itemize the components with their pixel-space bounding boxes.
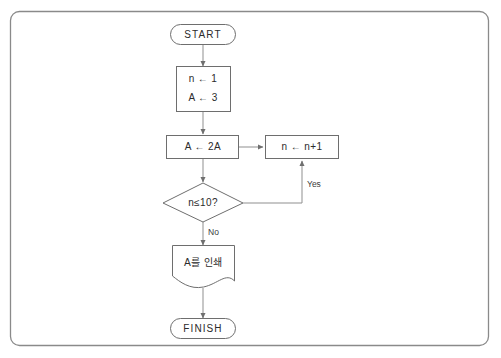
double-label: A ← 2A [185, 141, 221, 152]
connector-decision-yes-loopback [243, 161, 302, 203]
node-decision[interactable]: n≤10? [163, 183, 243, 222]
decision-label: n≤10? [188, 197, 218, 208]
start-label: START [184, 29, 221, 40]
node-finish[interactable]: FINISH [171, 319, 236, 339]
node-increment[interactable]: n ← n+1 [266, 136, 339, 159]
flowchart-container: START n ← 1 A ← 3 A ← 2A n ← n+1 n≤10? A… [0, 0, 501, 358]
increment-label: n ← n+1 [282, 141, 323, 152]
edge-label-no: No [208, 227, 219, 237]
node-print[interactable]: A를 인쇄 [173, 246, 235, 288]
finish-label: FINISH [183, 323, 222, 334]
flowchart-canvas: START n ← 1 A ← 3 A ← 2A n ← n+1 n≤10? A… [0, 0, 501, 358]
node-init[interactable]: n ← 1 A ← 3 [177, 67, 231, 112]
print-label: A를 인쇄 [184, 257, 222, 268]
edge-label-yes: Yes [307, 179, 321, 189]
node-start[interactable]: START [171, 25, 236, 45]
node-double[interactable]: A ← 2A [167, 136, 239, 159]
init-label-line1: n ← 1 [189, 73, 218, 84]
init-label-line2: A ← 3 [188, 92, 217, 103]
outer-frame-border [11, 12, 489, 346]
